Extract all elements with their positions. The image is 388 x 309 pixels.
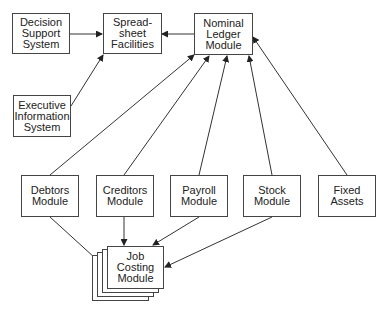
node-nominal-ledger-module: Nominal Ledger Module <box>194 13 253 55</box>
edge-payroll-nominal <box>199 56 227 175</box>
node-payroll-module: Payroll Module <box>170 175 228 217</box>
node-fixed-assets: Fixed Assets <box>318 175 376 217</box>
edge-stock-nominal <box>249 56 272 175</box>
edge-creditors-nominal <box>124 56 209 175</box>
edge-eis-spreadsheet <box>71 55 103 106</box>
node-executive-information-system: Executive Information System <box>13 95 71 137</box>
edge-debtors-nominal <box>50 55 194 175</box>
edge-stock-jobcosting <box>165 217 272 267</box>
edge-fixed-nominal <box>253 37 347 175</box>
edge-payroll-jobcosting <box>153 217 199 245</box>
node-decision-support-system: Decision Support System <box>12 13 70 54</box>
node-stock-module: Stock Module <box>243 175 301 217</box>
node-spreadsheet-facilities: Spread- sheet Facilities <box>103 13 162 54</box>
node-job-costing-module: Job Costing Module <box>107 246 164 289</box>
node-creditors-module: Creditors Module <box>96 175 154 217</box>
node-debtors-module: Debtors Module <box>21 175 79 217</box>
